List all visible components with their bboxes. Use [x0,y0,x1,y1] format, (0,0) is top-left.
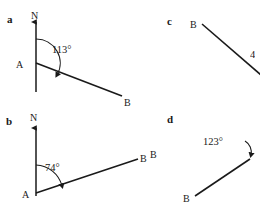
bearing-ray-a [36,63,122,96]
part-label-a: a [7,14,13,25]
point-label-d-endpoint: B [183,194,190,204]
part-label-c: c [167,16,172,27]
angle-label-b: 74° [45,163,60,174]
point-label-a-endpoint: B [124,98,131,108]
part-label-b: b [6,116,12,127]
point-label-b-endpoint: B [140,154,147,164]
angle-label-a: 113° [52,45,72,56]
point-label-c-endpoint: B [190,20,197,30]
part-label-d: d [167,114,173,125]
angle-arc-d [245,141,251,155]
bearing-ray-d [195,159,250,196]
north-label-a: N [31,11,38,21]
point-label-b-vertex: A [22,190,29,200]
diagram-a [36,22,122,96]
point-label-stray-b: B [150,150,157,160]
point-label-a-vertex: A [16,60,23,70]
figure-canvas [0,0,260,217]
angle-label-d: 123° [203,137,223,148]
bearing-diagram-figure: a N A B 113° b N A B 74° c B 4 d B 123° … [0,0,260,217]
diagram-d [195,141,251,196]
north-label-b: N [30,113,37,123]
angle-label-c: 4 [250,50,255,61]
